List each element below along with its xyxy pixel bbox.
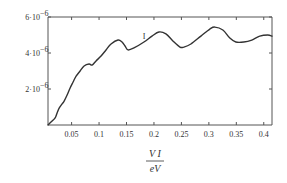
x-tick-label: 0.2 bbox=[149, 130, 159, 139]
y-tick-label: 6·10 bbox=[25, 13, 40, 22]
chart: 0.050.10.150.20.250.30.350.4 2·10−64·10−… bbox=[0, 0, 287, 183]
x-tick-label: 0.1 bbox=[94, 130, 104, 139]
plot-frame bbox=[48, 17, 272, 125]
x-axis-label-numerator: V I bbox=[149, 148, 161, 159]
series-layer bbox=[48, 27, 272, 125]
x-tick-label: 0.25 bbox=[174, 130, 188, 139]
x-tick-label: 0.35 bbox=[229, 130, 243, 139]
x-tick-label: 0.15 bbox=[120, 130, 134, 139]
x-tick-label: 0.3 bbox=[204, 130, 214, 139]
x-tick-label: 0.05 bbox=[65, 130, 79, 139]
y-tick-label-exponent: −6 bbox=[40, 9, 49, 18]
y-tick-label-exponent: −6 bbox=[40, 45, 49, 54]
annotation-marker: I bbox=[143, 32, 146, 41]
y-tick-label-exponent: −6 bbox=[40, 81, 49, 90]
x-axis-label: V I eV bbox=[146, 148, 164, 174]
x-axis-label-denominator: eV bbox=[150, 163, 162, 174]
y-tick-label: 4·10 bbox=[25, 49, 40, 58]
series-line-curve bbox=[48, 27, 272, 125]
y-ticks: 2·10−64·10−66·10−6 bbox=[25, 9, 272, 94]
y-tick-label: 2·10 bbox=[25, 85, 40, 94]
x-tick-label: 0.4 bbox=[259, 130, 269, 139]
